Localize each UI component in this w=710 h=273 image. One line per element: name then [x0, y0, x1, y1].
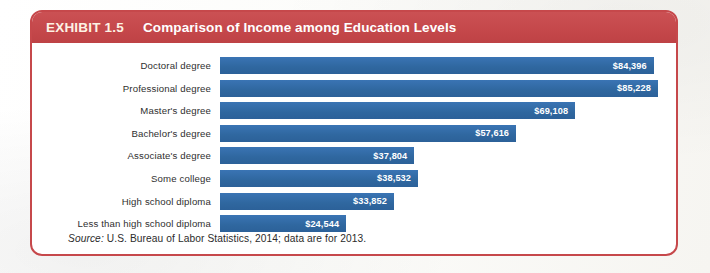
bar-row: Master's degree$69,108 [32, 102, 676, 119]
exhibit-card: EXHIBIT 1.5 Comparison of Income among E… [30, 10, 678, 256]
bar-value-label: $38,532 [377, 173, 418, 183]
exhibit-title: Comparison of Income among Education Lev… [143, 20, 456, 35]
source-text: U.S. Bureau of Labor Statistics, 2014; d… [104, 233, 366, 244]
bar-category-label: Doctoral degree [32, 60, 220, 71]
bar-value-label: $33,852 [353, 196, 394, 206]
bar-category-label: High school diploma [32, 196, 220, 207]
bar-row: Doctoral degree$84,396 [32, 57, 676, 74]
bar-track: $38,532 [220, 170, 676, 187]
bar-value-label: $24,544 [305, 219, 346, 229]
bar-row: High school diploma$33,852 [32, 193, 676, 210]
exhibit-number-label: EXHIBIT 1.5 [46, 20, 124, 35]
bar-category-label: Bachelor's degree [32, 128, 220, 139]
bar-value-label: $57,616 [475, 128, 516, 138]
source-label: Source: [68, 233, 104, 244]
bar-row: Professional degree$85,228 [32, 80, 676, 97]
bar-track: $33,852 [220, 193, 676, 210]
bar-fill: $37,804 [220, 147, 414, 164]
bar-row: Less than high school diploma$24,544 [32, 215, 676, 232]
bar-row: Associate's degree$37,804 [32, 147, 676, 164]
bar-track: $84,396 [220, 57, 676, 74]
bar-value-label: $37,804 [373, 151, 414, 161]
bar-track: $37,804 [220, 147, 676, 164]
bar-category-label: Associate's degree [32, 150, 220, 161]
bar-row: Bachelor's degree$57,616 [32, 125, 676, 142]
bar-category-label: Less than high school diploma [32, 218, 220, 229]
bar-category-label: Professional degree [32, 83, 220, 94]
bar-fill: $84,396 [220, 57, 654, 74]
bar-track: $69,108 [220, 102, 676, 119]
bar-track: $24,544 [220, 215, 676, 232]
bar-chart: Doctoral degree$84,396Professional degre… [32, 43, 676, 256]
bar-fill: $85,228 [220, 80, 658, 97]
bar-fill: $69,108 [220, 102, 575, 119]
bar-category-label: Master's degree [32, 105, 220, 116]
bar-category-label: Some college [32, 173, 220, 184]
source-note: Source: U.S. Bureau of Labor Statistics,… [68, 233, 366, 244]
bar-rows-container: Doctoral degree$84,396Professional degre… [32, 57, 676, 238]
bar-fill: $38,532 [220, 170, 418, 187]
bar-fill: $24,544 [220, 215, 346, 232]
exhibit-header: EXHIBIT 1.5 Comparison of Income among E… [32, 12, 676, 43]
bar-fill: $57,616 [220, 125, 516, 142]
bar-track: $85,228 [220, 80, 676, 97]
bar-value-label: $69,108 [534, 106, 575, 116]
bar-track: $57,616 [220, 125, 676, 142]
bar-value-label: $85,228 [617, 83, 658, 93]
bar-row: Some college$38,532 [32, 170, 676, 187]
bar-fill: $33,852 [220, 193, 394, 210]
bar-value-label: $84,396 [613, 61, 654, 71]
